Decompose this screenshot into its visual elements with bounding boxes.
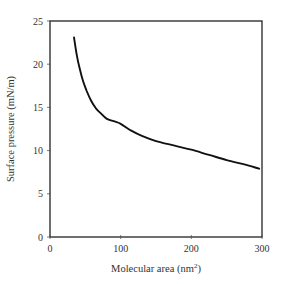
x-tick-label: 100	[113, 243, 128, 254]
x-tick-label: 200	[184, 243, 199, 254]
y-tick-label: 25	[33, 16, 43, 27]
data-series	[74, 37, 259, 168]
isotherm-curve	[74, 37, 259, 168]
y-axis-label: Surface pressure (mN/m)	[5, 75, 17, 182]
chart: 01002003000510152025 Molecular area (nm2…	[0, 0, 286, 284]
axis-ticks: 01002003000510152025	[33, 16, 270, 255]
x-axis-label: Molecular area (nm2)	[111, 262, 201, 275]
x-tick-label: 300	[255, 243, 270, 254]
y-tick-label: 5	[38, 188, 43, 199]
x-tick-label: 0	[48, 243, 53, 254]
y-tick-label: 20	[33, 59, 43, 70]
plot-frame	[50, 21, 262, 237]
y-tick-label: 15	[33, 102, 43, 113]
y-tick-label: 10	[33, 145, 43, 156]
y-tick-label: 0	[38, 232, 43, 243]
